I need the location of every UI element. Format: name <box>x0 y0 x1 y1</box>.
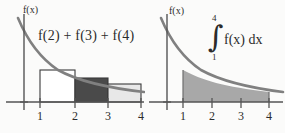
integral-xtick-label-4: 4 <box>266 110 272 122</box>
riemann-sum-expression: f(2) + f(3) + f(4) <box>38 29 134 43</box>
figure-root: f(x) f(2) + f(3) + f(4) 1 2 3 4 <box>0 0 285 133</box>
riemann-xtick-label-3: 3 <box>105 110 111 122</box>
integral-xtick-label-1: 1 <box>180 110 186 122</box>
riemann-y-axis-label: f(x) <box>23 5 38 15</box>
integral-lower-limit: 1 <box>212 53 217 62</box>
integral-shaded-area <box>183 70 269 102</box>
riemann-sum-panel: f(x) f(2) + f(3) + f(4) 1 2 3 4 <box>0 0 145 133</box>
riemann-rectangles <box>40 70 141 102</box>
definite-integral-panel: f(x) 4 ∫ 1 f(x) dx 1 2 3 4 <box>143 0 285 133</box>
integral-y-axis-label: f(x) <box>169 6 184 16</box>
integral-integrand: f(x) dx <box>224 33 263 47</box>
integral-sign-icon: ∫ <box>208 22 224 52</box>
integral-xtick-label-3: 3 <box>238 110 244 122</box>
riemann-xtick-label-1: 1 <box>37 110 43 122</box>
integral-xtick-label-2: 2 <box>209 110 215 122</box>
riemann-xtick-label-2: 2 <box>72 110 78 122</box>
